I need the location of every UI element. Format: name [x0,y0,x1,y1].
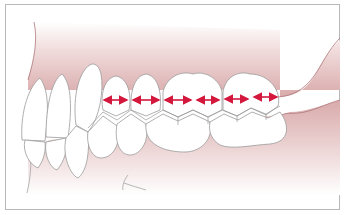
dental-illustration [0,0,353,215]
upper-incisor-1 [22,78,48,141]
lower-molar-2 [209,112,286,147]
